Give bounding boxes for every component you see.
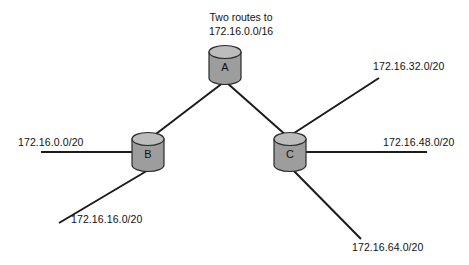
network-label-bottom-right: 172.16.64.0/20 [352, 241, 423, 254]
network-label-right: 172.16.48.0/20 [383, 136, 454, 149]
network-label-bottom-left: 172.16.16.0/20 [71, 213, 142, 226]
router-a-label: A [221, 61, 229, 73]
link-c-bottomright-stub [292, 169, 361, 239]
router-node-b[interactable]: B [132, 133, 164, 172]
network-diagram: A B C Two routes to 172.16.0.0/16 172.16… [0, 0, 469, 265]
link-a-to-b [152, 82, 224, 137]
network-label-top-right: 172.16.32.0/20 [373, 60, 444, 73]
link-a-to-c [226, 82, 288, 137]
network-label-left: 172.16.0.0/20 [18, 136, 84, 149]
annotation-line-1: Two routes to [186, 11, 296, 25]
router-a-annotation: Two routes to 172.16.0.0/16 [186, 11, 296, 38]
link-c-topright-stub [288, 78, 379, 137]
router-c-top [274, 133, 306, 146]
router-node-c[interactable]: C [274, 133, 306, 172]
annotation-line-2: 172.16.0.0/16 [186, 25, 296, 39]
router-a-top [209, 46, 241, 59]
router-b-top [132, 133, 164, 146]
router-b-label: B [144, 148, 151, 160]
router-c-label: C [286, 148, 294, 160]
router-node-a[interactable]: A [209, 46, 241, 85]
